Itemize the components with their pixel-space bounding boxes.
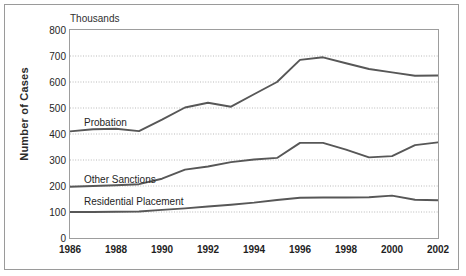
y-axis-tick-label: 0 bbox=[32, 233, 66, 244]
x-axis-tick-labels: 198619881990199219941996199820002002 bbox=[69, 244, 439, 260]
series-label-probation: Probation bbox=[84, 117, 127, 128]
y-axis-tick-label: 400 bbox=[32, 129, 66, 140]
x-axis-tick-label: 2002 bbox=[418, 244, 458, 255]
x-axis-tick-label: 1998 bbox=[326, 244, 366, 255]
y-axis-tick-label: 100 bbox=[32, 207, 66, 218]
gridlines bbox=[70, 56, 438, 212]
plot-area bbox=[69, 29, 439, 239]
y-axis-tick-label: 600 bbox=[32, 77, 66, 88]
series-lines bbox=[70, 57, 438, 212]
y-axis-tick-label: 700 bbox=[32, 51, 66, 62]
y-axis-tick-labels: 0100200300400500600700800 bbox=[28, 29, 66, 239]
units-label: Thousands bbox=[70, 13, 119, 24]
x-axis-tick-label: 1996 bbox=[280, 244, 320, 255]
series-label-residential-placement: Residential Placement bbox=[84, 196, 184, 207]
y-axis-tick-label: 500 bbox=[32, 103, 66, 114]
x-axis-tick-label: 1990 bbox=[142, 244, 182, 255]
series-label-other-sanctions: Other Sanctions bbox=[84, 174, 156, 185]
x-axis-tick-label: 1986 bbox=[50, 244, 90, 255]
y-axis-tick-label: 300 bbox=[32, 155, 66, 166]
x-axis-tick-label: 1988 bbox=[96, 244, 136, 255]
chart-figure: Number of Cases Thousands 01002003004005… bbox=[0, 0, 466, 276]
x-axis-tick-label: 2000 bbox=[372, 244, 412, 255]
y-axis-tick-label: 800 bbox=[32, 25, 66, 36]
y-axis-tick-label: 200 bbox=[32, 181, 66, 192]
x-axis-tick-label: 1992 bbox=[188, 244, 228, 255]
x-axis-tick-label: 1994 bbox=[234, 244, 274, 255]
